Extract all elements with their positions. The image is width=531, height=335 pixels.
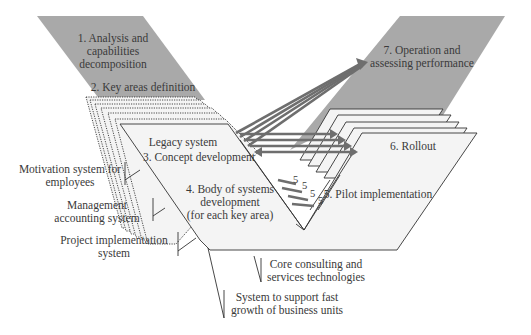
- phase-7-label: assessing performance: [370, 57, 474, 70]
- marker-5: 5: [310, 188, 315, 199]
- phase-5-label: 5. Pilot implementation: [324, 188, 433, 201]
- phase-3-label: 3. Concept development: [143, 151, 256, 164]
- callout-growth: System to support fast: [236, 291, 339, 304]
- phase-1-label: decomposition: [79, 58, 147, 71]
- callout-project: Project implementation: [60, 234, 168, 247]
- phase-2-label: 2. Key areas definition: [91, 81, 196, 94]
- v-model-diagram: 5 5 5 5 1. Analysis and capabilities dec…: [0, 0, 531, 335]
- phase-6-label: 6. Rollout: [390, 140, 437, 152]
- callout-growth: growth of business units: [231, 304, 344, 317]
- phase-1-label: capabilities: [87, 45, 140, 58]
- callout-motivation: Motivation system for: [19, 163, 121, 176]
- phase-4-label: 4. Body of systems: [186, 183, 275, 196]
- phase-4-label: (for each key area): [187, 209, 274, 222]
- callout-motivation: employees: [45, 176, 95, 189]
- callout-core: services technologies: [267, 271, 366, 284]
- marker-5: 5: [302, 180, 307, 191]
- marker-5: 5: [318, 195, 323, 206]
- callout-project: system: [98, 247, 130, 260]
- marker-5: 5: [293, 174, 298, 185]
- legacy-system-label: Legacy system: [149, 136, 218, 149]
- callout-core: Core consulting and: [270, 258, 363, 271]
- callout-management: accounting system: [54, 212, 139, 225]
- callout-management: Management: [67, 199, 128, 212]
- phase-7-label: 7. Operation and: [384, 44, 461, 57]
- phase-4-label: development: [200, 196, 260, 209]
- phase-1-label: 1. Analysis and: [78, 32, 149, 45]
